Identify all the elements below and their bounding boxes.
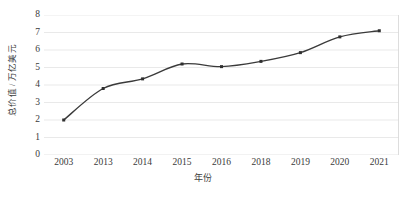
- data-point-marker: [102, 87, 105, 90]
- plot-area: [44, 15, 399, 155]
- y-tick-label: 5: [35, 63, 40, 73]
- y-tick-label: 2: [35, 115, 40, 125]
- x-tick-label: 2015: [173, 157, 192, 168]
- data-point-marker: [220, 65, 223, 68]
- y-axis-title: 总价值 / 万亿美元: [0, 0, 22, 160]
- y-axis-title-text: 总价值 / 万亿美元: [5, 44, 17, 116]
- y-tick-label: 0: [35, 150, 40, 160]
- y-tick-label: 1: [35, 133, 40, 143]
- data-point-marker: [338, 35, 341, 38]
- x-tick-label: 2019: [291, 157, 310, 168]
- y-tick-label: 3: [35, 98, 40, 108]
- x-axis-title-text: 年份: [194, 173, 212, 183]
- series-markers: [62, 29, 381, 121]
- y-axis-tick-labels: 012345678: [22, 0, 42, 160]
- x-tick-label: 2021: [370, 157, 389, 168]
- x-tick-label: 2018: [251, 157, 270, 168]
- y-tick-label: 7: [35, 28, 40, 38]
- x-tick-label: 2003: [54, 157, 73, 168]
- series-line: [64, 31, 380, 120]
- data-point-marker: [259, 60, 262, 63]
- plot-svg: [44, 15, 399, 155]
- y-tick-label: 8: [35, 10, 40, 20]
- x-tick-label: 2013: [94, 157, 113, 168]
- x-tick-label: 2020: [330, 157, 349, 168]
- line-chart: 总价值 / 万亿美元 012345678 2003201320142015201…: [0, 0, 406, 197]
- x-axis-title: 年份: [0, 171, 406, 184]
- data-point-marker: [141, 77, 144, 80]
- data-point-marker: [378, 29, 381, 32]
- x-tick-label: 2014: [133, 157, 152, 168]
- x-tick-label: 2016: [212, 157, 231, 168]
- data-point-marker: [62, 119, 65, 122]
- y-tick-label: 6: [35, 45, 40, 55]
- data-point-marker: [181, 63, 184, 66]
- data-point-marker: [299, 51, 302, 54]
- y-tick-label: 4: [35, 80, 40, 90]
